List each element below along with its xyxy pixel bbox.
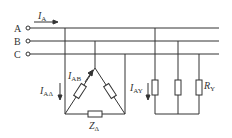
resistor-wye-b [175,80,181,95]
resistor-delta-bc [104,83,117,98]
label-wye-resistance: RY [203,80,215,93]
circuit-diagram: A B C IA IAB IAΔ ZΔ IAY RY [0,0,232,138]
resistor-delta-ca [88,111,102,117]
terminal-b [26,39,30,43]
terminal-a [26,26,30,30]
arrowhead-icon [53,20,58,24]
label-phase-current-ab: IAB [67,70,81,83]
resistor-wye-c [196,80,202,95]
terminal-c [26,52,30,56]
phase-label-c: C [14,49,21,60]
resistor-delta-ab [74,83,87,98]
label-delta-impedance: ZΔ [89,120,100,133]
label-wye-line-current: IAY [129,82,143,95]
arrowhead-icon [58,95,62,100]
label-line-current-a: IA [37,10,46,23]
phase-label-b: B [14,36,21,47]
arrowhead-icon [88,70,93,76]
label-delta-line-current: IAΔ [39,85,53,98]
arrowhead-icon [146,95,150,100]
resistor-wye-a [152,80,158,95]
phase-label-a: A [14,23,22,34]
